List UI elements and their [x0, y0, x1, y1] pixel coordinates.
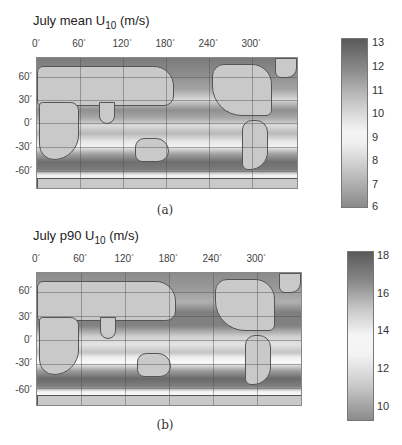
title-subscript: 10: [94, 235, 105, 246]
grid-line: [37, 340, 301, 341]
colorbar-p90: [347, 251, 374, 421]
y-tick: -30°: [2, 357, 32, 368]
india-landmass: [100, 317, 116, 339]
caption-b: (b): [156, 418, 173, 432]
y-tick: 60°: [2, 285, 32, 296]
x-tick: 180°: [158, 253, 177, 264]
x-tick: 0°: [32, 253, 40, 264]
x-tick: 60°: [73, 253, 87, 264]
australia-landmass: [137, 353, 171, 377]
colorbar-tick: 18: [377, 249, 389, 261]
eurasia-landmass: [37, 281, 176, 321]
colorbar-tick: 14: [377, 324, 389, 336]
africa-landmass: [39, 317, 79, 375]
x-tick: 300°: [246, 253, 265, 264]
grid-line: [37, 292, 301, 293]
x-tick: 240°: [202, 253, 221, 264]
grid-line: [37, 364, 301, 365]
y-tick: 30°: [2, 311, 32, 322]
y-tick: 0°: [2, 334, 32, 345]
panel-b: July p90 U10 (m/s) 0° 60° 120° 180° 240°…: [0, 0, 402, 445]
greenland-landmass: [279, 273, 301, 293]
grid-line: [37, 316, 301, 317]
grid-line: [37, 388, 301, 389]
south-america-landmass: [245, 335, 271, 385]
y-tick: -60°: [2, 384, 32, 395]
title-text: July p90 U: [33, 228, 94, 243]
panel-b-title: July p90 U10 (m/s): [33, 228, 139, 246]
title-units: (m/s): [106, 228, 139, 243]
x-tick: 120°: [114, 253, 133, 264]
colorbar-tick: 10: [377, 400, 389, 412]
north-america-landmass: [215, 279, 275, 331]
map-p90-u10: [36, 272, 302, 406]
colorbar-tick: 16: [377, 287, 389, 299]
colorbar-tick: 12: [377, 362, 389, 374]
